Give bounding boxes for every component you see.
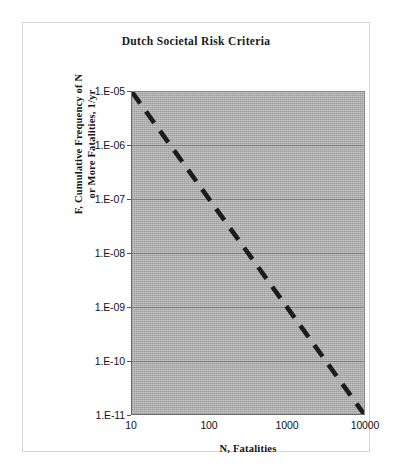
y-axis-title-line1: F, Cumulative Frequency of N [73,74,84,215]
y-tick-mark [127,415,131,416]
x-tick-label: 1000 [257,419,317,431]
risk-criterion-dashed-line [132,92,364,414]
y-axis-title-line2: or More Fatalities, 1/yr [86,90,97,199]
plot-area [131,91,365,415]
y-tick-label: 1.E-09 [73,301,125,313]
y-axis-title: F, Cumulative Frequency of N or More Fat… [72,22,98,266]
x-tick-label: 100 [179,419,239,431]
risk-criterion-line [131,91,365,415]
chart-frame: Dutch Societal Risk Criteria 1.E-05 1.E-… [22,22,370,452]
x-tick-label: 10000 [335,419,393,431]
x-tick-label: 10 [101,419,161,431]
x-axis-title: N, Fatalities [131,443,365,454]
y-tick-label: 1.E-10 [73,355,125,367]
